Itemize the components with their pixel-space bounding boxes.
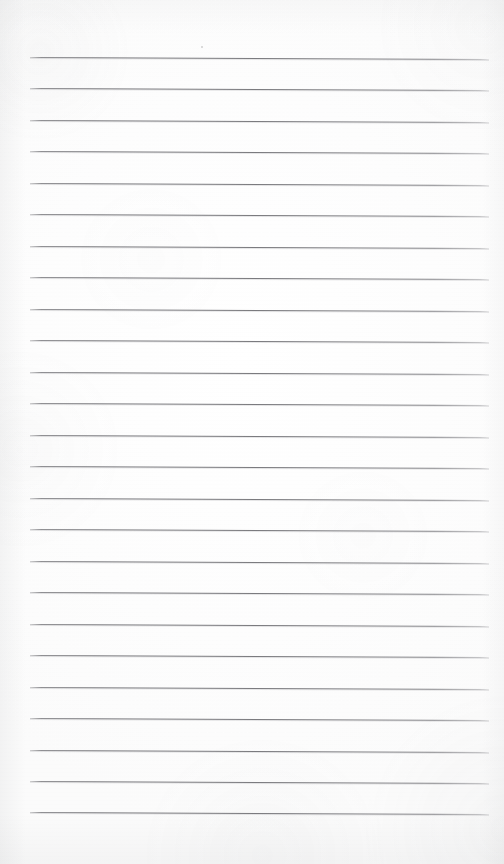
ruled-line <box>30 624 489 627</box>
ruled-line <box>30 214 489 217</box>
ruled-line <box>30 592 489 595</box>
ruled-line <box>30 687 489 690</box>
ruled-line <box>30 466 489 469</box>
ruled-lines-group <box>0 0 504 864</box>
ruled-line <box>30 309 489 312</box>
ruled-line <box>30 340 489 343</box>
ruled-line <box>30 372 489 375</box>
ruled-line <box>30 246 489 249</box>
ruled-line <box>30 718 489 721</box>
ruled-line <box>30 57 489 60</box>
ruled-line <box>30 435 489 438</box>
ruled-line <box>30 151 489 154</box>
ruled-line <box>30 812 489 815</box>
ruled-line <box>30 120 489 123</box>
ruled-line <box>30 561 489 564</box>
scanned-page <box>0 0 504 864</box>
ruled-line <box>30 781 489 784</box>
ruled-line <box>30 750 489 753</box>
ruled-line <box>30 655 489 658</box>
ruled-line <box>30 88 489 91</box>
ruled-line <box>30 183 489 186</box>
ruled-line <box>30 403 489 406</box>
ruled-line <box>30 277 489 280</box>
ruled-line <box>30 498 489 501</box>
scan-speck <box>201 46 203 48</box>
ruled-line <box>30 529 489 532</box>
